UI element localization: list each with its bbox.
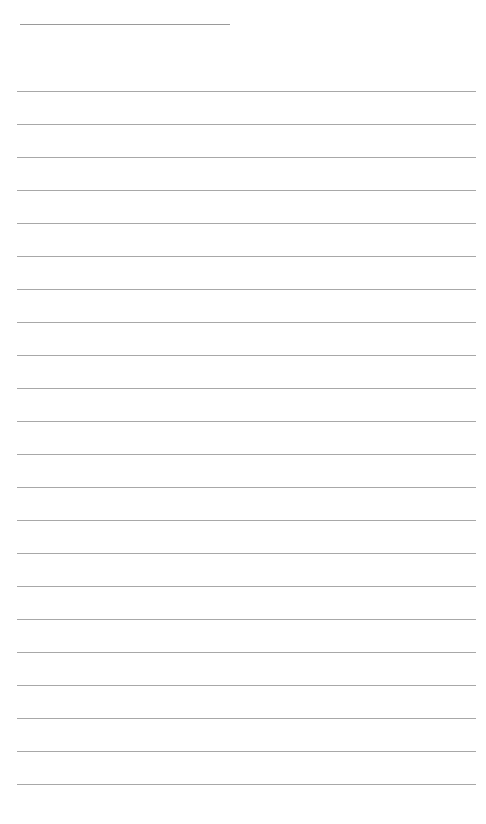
ruled-line: [17, 421, 476, 422]
ruled-line: [17, 256, 476, 257]
ruled-line: [17, 157, 476, 158]
ruled-line: [17, 718, 476, 719]
ruled-line: [17, 586, 476, 587]
ruled-line: [17, 223, 476, 224]
ruled-line: [17, 91, 476, 92]
ruled-line: [17, 685, 476, 686]
ruled-line: [17, 289, 476, 290]
ruled-line: [17, 124, 476, 125]
ruled-line: [17, 751, 476, 752]
ruled-line: [17, 454, 476, 455]
ruled-line: [17, 322, 476, 323]
ruled-line: [17, 652, 476, 653]
ruled-line: [17, 784, 476, 785]
ruled-line: [17, 355, 476, 356]
title-line: [20, 24, 230, 25]
ruled-line: [17, 388, 476, 389]
ruled-line: [17, 190, 476, 191]
ruled-line: [17, 487, 476, 488]
ruled-line: [17, 619, 476, 620]
ruled-line: [17, 553, 476, 554]
ruled-line: [17, 520, 476, 521]
